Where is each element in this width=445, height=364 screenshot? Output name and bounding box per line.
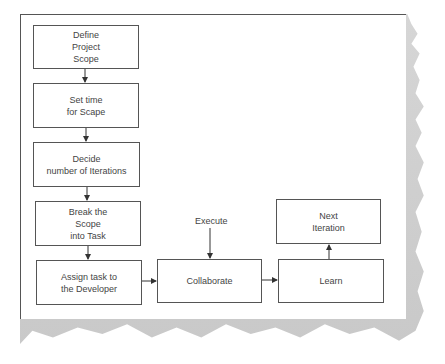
- connector-arrows: [0, 0, 445, 364]
